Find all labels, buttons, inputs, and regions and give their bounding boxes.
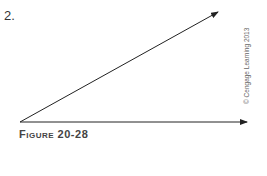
figure-caption: Figure 20-28 xyxy=(19,128,88,140)
copyright-notice: © Cengage Learning 2013 xyxy=(243,28,250,104)
angle-figure xyxy=(0,0,267,176)
diagonal-ray xyxy=(20,12,218,122)
